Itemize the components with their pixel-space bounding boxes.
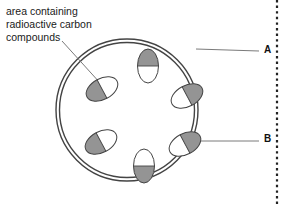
cell-wall-outer <box>56 39 198 181</box>
chloroplast-bottom <box>134 149 155 183</box>
label-a: A <box>264 44 271 55</box>
figure-canvas: area containing radioactive carbon compo… <box>0 0 285 204</box>
cell-wall <box>56 39 198 181</box>
caption-radioactive-carbon: area containing radioactive carbon compo… <box>6 5 136 45</box>
label-b: B <box>264 133 271 144</box>
chloroplast-top <box>138 49 159 83</box>
leader-a <box>196 49 259 51</box>
